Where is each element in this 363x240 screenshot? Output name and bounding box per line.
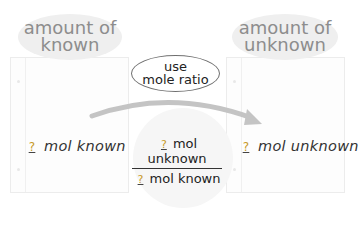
- known-quantity: ?mol known: [24, 138, 126, 154]
- fraction-numerator: ?mol unknown: [132, 136, 222, 166]
- fraction-bar: [132, 168, 222, 169]
- unknown-quantity-text: mol unknown: [258, 138, 359, 154]
- known-quantity-text: mol known: [44, 138, 126, 154]
- known-placeholder: ?: [24, 140, 40, 154]
- denominator-placeholder: ?: [134, 173, 148, 186]
- unknown-quantity: ?mol unknown: [238, 138, 359, 154]
- numerator-placeholder: ?: [157, 138, 171, 151]
- mole-ratio-fraction: ?mol unknown ?mol known: [132, 136, 222, 186]
- denominator-text: mol known: [150, 171, 221, 186]
- mole-ratio-label: use mole ratio: [131, 60, 220, 86]
- arrow-shaft: [92, 102, 252, 118]
- arrow-head-icon: [244, 109, 262, 125]
- mole-ratio-label-line2: mole ratio: [131, 73, 220, 86]
- unknown-placeholder: ?: [238, 140, 254, 154]
- fraction-denominator: ?mol known: [132, 171, 222, 186]
